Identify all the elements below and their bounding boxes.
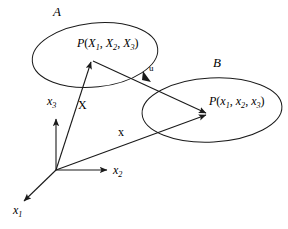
diagram-svg	[0, 0, 288, 229]
axis-label-x2: x2	[113, 164, 122, 180]
axis-label-x1: x1	[13, 204, 22, 220]
vector-arrow-X	[56, 62, 91, 170]
point-P-spatial-close-paren: )	[261, 94, 265, 108]
vector-label-u: u	[149, 64, 154, 73]
ellipse-set-a	[29, 17, 161, 94]
point-P-material-close-paren: )	[135, 36, 139, 50]
point-P-material-arg3: X	[123, 36, 130, 50]
vector-arrow-x	[56, 115, 206, 170]
axis-label-x2-sub: 2	[118, 170, 122, 179]
point-label-P-material: P(X1, X2, X3)	[77, 37, 139, 53]
point-label-P-spatial: P(x1, x2, x3)	[209, 95, 265, 111]
axis-label-x1-sub: 1	[18, 210, 22, 219]
figure-canvas: A B P(X1, X2, X3) P(x1, x2, x3) x3 x2 x1…	[0, 0, 288, 229]
set-label-a: A	[53, 5, 61, 18]
axis-arrow-x1	[24, 170, 56, 201]
axis-label-x3: x3	[47, 95, 56, 111]
point-P-material-arg2: X	[106, 36, 113, 50]
vector-label-X: X	[78, 99, 87, 111]
vector-label-x: x	[118, 126, 124, 138]
point-P-material-arg1: X	[88, 36, 95, 50]
axis-label-x3-sub: 3	[52, 101, 56, 110]
set-label-b: B	[213, 56, 221, 69]
